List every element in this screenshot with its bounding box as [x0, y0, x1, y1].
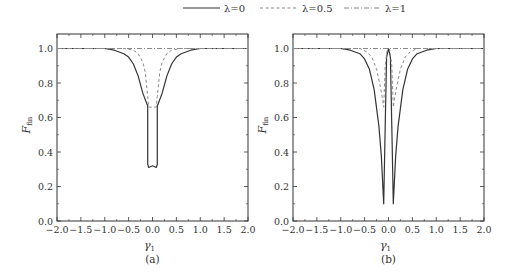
y-tick-label: 0.2: [274, 181, 289, 192]
series-line: [293, 49, 484, 204]
legend-item-lambda-0.5: λ=0.5: [260, 3, 333, 14]
x-axis-label: γ1: [380, 239, 391, 253]
x-tick-label: 1.5: [453, 224, 468, 235]
figure: λ=0 λ=0.5 λ=1 −2.0−1.5−1.0−0.50.00.51.01…: [0, 0, 515, 278]
legend-item-lambda-0: λ=0: [183, 3, 245, 14]
panel-b: −2.0−1.5−1.0−0.50.00.51.01.52.00.00.20.4…: [256, 34, 492, 265]
panel-caption: (a): [145, 253, 159, 265]
x-tick-label: 0.5: [169, 224, 184, 235]
y-tick-label: 0.0: [274, 216, 289, 227]
y-axis-label: Ffin: [20, 116, 34, 134]
x-tick-label: 0.0: [145, 224, 160, 235]
x-tick-label: 2.0: [240, 224, 255, 235]
legend-label: λ=1: [385, 3, 406, 14]
x-tick-label: −1.0: [329, 224, 352, 235]
y-tick-label: 1.0: [38, 43, 53, 54]
x-tick-label: 0.0: [381, 224, 396, 235]
y-tick-label: 0.0: [38, 216, 53, 227]
legend-label: λ=0: [224, 3, 245, 14]
y-tick-label: 0.6: [274, 112, 289, 123]
x-tick-label: 1.0: [193, 224, 208, 235]
series-line: [57, 49, 248, 168]
x-tick-label: −1.5: [69, 224, 92, 235]
x-tick-label: 1.0: [429, 224, 444, 235]
y-tick-label: 0.2: [38, 181, 53, 192]
plot-frame: [57, 34, 248, 221]
y-tick-label: 0.4: [38, 147, 53, 158]
y-axis-label: Ffin: [256, 116, 270, 134]
y-tick-label: 1.0: [274, 43, 289, 54]
x-tick-label: −1.5: [305, 224, 328, 235]
y-tick-label: 0.8: [274, 78, 289, 89]
x-tick-label: 0.5: [405, 224, 420, 235]
x-tick-label: 1.5: [217, 224, 232, 235]
x-tick-label: −0.5: [117, 224, 140, 235]
y-tick-label: 0.4: [274, 147, 289, 158]
series-line: [57, 49, 248, 108]
x-tick-label: −1.0: [93, 224, 116, 235]
y-tick-label: 0.8: [38, 78, 53, 89]
panel-a: −2.0−1.5−1.0−0.50.00.51.01.52.00.00.20.4…: [20, 34, 256, 265]
panel-caption: (b): [381, 253, 396, 265]
legend-item-lambda-1: λ=1: [344, 3, 406, 14]
plot-frame: [293, 34, 484, 221]
series-line: [293, 49, 484, 108]
x-axis-label: γ1: [144, 239, 155, 253]
legend: λ=0 λ=0.5 λ=1: [183, 3, 406, 14]
y-tick-label: 0.6: [38, 112, 53, 123]
x-tick-label: 2.0: [476, 224, 491, 235]
legend-label: λ=0.5: [302, 3, 333, 14]
x-tick-label: −0.5: [353, 224, 376, 235]
